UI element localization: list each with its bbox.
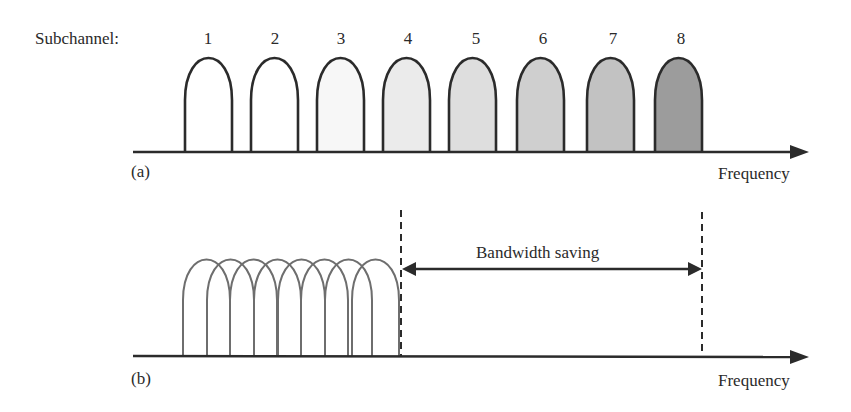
subchannel-2	[251, 58, 298, 152]
subchannel-1	[185, 58, 232, 152]
panel-a-subchannels	[185, 58, 702, 152]
bandwidth-saving-arrowhead-left	[402, 262, 416, 276]
panel-b-overlapping-subchannels	[183, 260, 399, 357]
subchannel-5	[449, 58, 496, 152]
subchannel-7	[587, 58, 634, 152]
panel-b-axis-arrowhead	[790, 350, 809, 364]
subchannel-4	[383, 58, 430, 152]
panel-a-axis-arrowhead	[790, 145, 809, 159]
bandwidth-saving-arrowhead-right	[688, 262, 702, 276]
panel-b-frequency-axis	[133, 356, 792, 357]
ofdm-diagram	[0, 0, 851, 412]
subchannel-6	[517, 58, 564, 152]
overlap-subchannel-8	[352, 260, 399, 357]
subchannel-3	[317, 58, 364, 152]
subchannel-8	[655, 58, 702, 152]
